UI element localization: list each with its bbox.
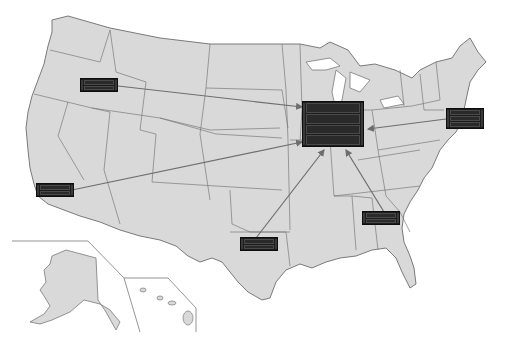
us-map [0,0,524,346]
server-unit [450,110,480,115]
server-unit [40,185,70,190]
site-rack-northeast[interactable] [446,108,484,129]
server-unit [450,122,480,127]
server-unit [450,116,480,121]
server-unit [84,80,114,85]
alaska [30,250,120,330]
server-unit [40,191,70,196]
server-unit [84,86,114,91]
server-unit [306,125,360,135]
site-rack-georgia[interactable] [362,211,400,225]
server-unit [366,213,396,218]
site-rack-texas[interactable] [240,237,278,251]
hub-server-rack[interactable] [302,101,364,147]
server-unit [306,114,360,124]
server-unit [306,103,360,113]
server-unit [306,135,360,145]
hawaii [140,288,193,325]
server-unit [244,245,274,250]
server-unit [244,239,274,244]
site-rack-oregon[interactable] [80,78,118,92]
server-unit [366,219,396,224]
site-rack-california[interactable] [36,183,74,197]
